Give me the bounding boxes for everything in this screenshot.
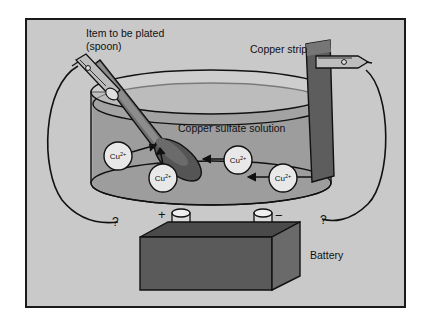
label-item-line1: Item to be plated bbox=[86, 27, 164, 39]
ion-3-text: Cu bbox=[230, 156, 240, 165]
battery-front-face bbox=[140, 237, 272, 290]
ion-1-text: Cu bbox=[110, 152, 120, 161]
ion-2: Cu2+ bbox=[149, 164, 177, 192]
ion-3-charge: 2+ bbox=[240, 155, 246, 161]
label-battery: Battery bbox=[310, 249, 343, 262]
question-mark-left: ? bbox=[112, 215, 119, 229]
ion-2-charge: 2+ bbox=[165, 173, 171, 179]
label-item-to-be-plated: Item to be plated(spoon) bbox=[86, 27, 164, 52]
ion-1-charge: 2+ bbox=[120, 151, 126, 157]
ion-3: Cu2+ bbox=[224, 146, 252, 174]
ion-2-text: Cu bbox=[155, 174, 165, 183]
label-item-line2: (spoon) bbox=[86, 40, 122, 52]
label-positive-terminal: + bbox=[158, 207, 166, 222]
ion-1: Cu2+ bbox=[104, 142, 132, 170]
ion-4-text: Cu bbox=[275, 174, 285, 183]
ion-4: Cu2+ bbox=[269, 164, 297, 192]
label-copper-sulfate-solution: Copper sulfate solution bbox=[178, 122, 285, 135]
label-negative-terminal: − bbox=[275, 208, 283, 223]
electroplating-diagram: Cu2+ Cu2+ Cu2+ Cu2+ bbox=[0, 0, 430, 324]
question-mark-right: ? bbox=[320, 213, 327, 227]
clip-right bbox=[316, 56, 372, 68]
label-copper-strip: Copper strip bbox=[250, 43, 307, 56]
ion-4-charge: 2+ bbox=[285, 173, 291, 179]
figure-stage: Cu2+ Cu2+ Cu2+ Cu2+ bbox=[0, 0, 430, 324]
